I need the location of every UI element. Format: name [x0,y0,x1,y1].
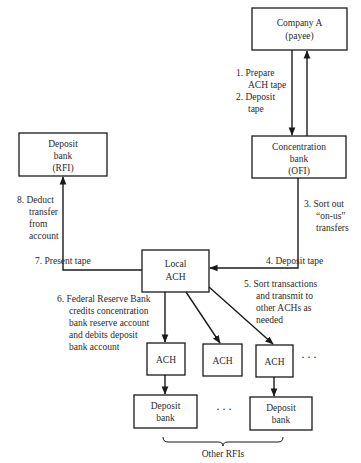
step-3-line3: transfers [316,223,349,233]
deposit-bank-rfi-line1: Deposit [48,139,78,149]
deposit-bank-node-1: Deposit bank [134,395,197,428]
step-6-line5: bank account [69,342,120,352]
deposit-bank-node-2: Deposit bank [250,397,312,430]
step-8-line4: account [29,231,59,241]
local-ach-line1: Local [165,259,187,269]
step-2-line1: 2. Deposit [236,92,275,102]
company-a-node: Company A (payee) [252,8,347,50]
concentration-bank-line2: bank [290,154,309,164]
step-3-line1: 3. Sort out [304,199,344,209]
ach-row-ellipsis: ··· [301,350,319,364]
ach-2-label: ACH [212,356,232,366]
arrow-local-ach-to-ach-2 [186,292,220,343]
ach-flow-diagram: Company A (payee) 1. Prepare ACH tape 2.… [0,0,361,463]
deposit-bank-1-line1: Deposit [151,401,181,411]
ach-1-label: ACH [156,355,176,365]
company-a-sublabel: (payee) [285,31,313,42]
step-8-line1: 8. Deduct [17,195,54,205]
concentration-bank-line3: (OFI) [288,166,310,177]
ach-node-2: ACH [203,344,242,376]
arrow-concentration-to-local-ach [210,178,298,268]
ach-node-3: ACH [256,345,293,377]
step-3-label: 3. Sort out “on-us” transfers [304,199,349,233]
step-6-label: 6. Federal Reserve Bank credits concentr… [57,294,151,352]
step-8-line3: from [29,219,48,229]
step-7-label: 7. Present tape [35,256,91,266]
step-6-line4: and debits deposit [69,330,138,340]
step-6-line3: bank reserve account [69,318,150,328]
deposit-bank-rfi-line2: bank [54,151,73,161]
deposit-bank-rfi-line3: (RFI) [52,163,73,174]
other-rfis-label: Other RFIs [202,449,245,459]
deposit-bank-2-line1: Deposit [266,403,296,413]
step-5-line2: and transmit to [256,291,313,301]
concentration-bank-line1: Concentration [272,142,326,152]
step-4-label: 4. Deposit tape [266,256,323,266]
step-6-line1: 6. Federal Reserve Bank [57,294,151,304]
step-2-line2: tape [248,104,264,114]
deposit-bank-1-line2: bank [156,413,175,423]
deposit-bank-2-line2: bank [272,415,291,425]
ach-3-label: ACH [264,357,284,367]
step-5-line3: other ACHs as [256,303,312,313]
concentration-bank-node: Concentration bank (OFI) [252,136,346,178]
step-5-line1: 5. Sort transactions [244,279,317,289]
step-1-line2: ACH tape [248,80,286,90]
step-5-label: 5. Sort transactions and transmit to oth… [244,279,317,325]
bank-row-ellipsis: ··· [216,402,234,416]
step-6-line2: credits concentration [69,306,149,316]
other-rfis-brace [163,437,283,446]
deposit-bank-rfi-node: Deposit bank (RFI) [19,133,107,176]
step-1-line1: 1. Prepare [236,68,275,78]
step-5-line4: needed [256,315,283,325]
local-ach-node: Local ACH [142,250,209,292]
step-8-line2: transfer [29,207,59,217]
step-1-2-label: 1. Prepare ACH tape 2. Deposit tape [236,68,286,114]
ach-node-1: ACH [147,343,185,375]
local-ach-line2: ACH [165,272,185,282]
step-3-line2: “on-us” [316,211,346,221]
step-8-label: 8. Deduct transfer from account [17,195,59,241]
company-a-label: Company A [277,18,323,28]
